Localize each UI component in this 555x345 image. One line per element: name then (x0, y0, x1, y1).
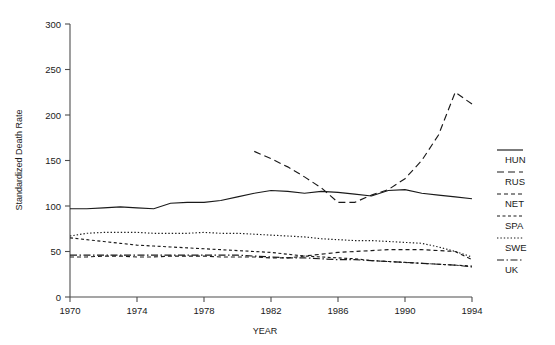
y-axis-title: Standardized Death Rate (14, 109, 24, 210)
series-line-rus (254, 92, 472, 202)
x-tick-label: 1974 (126, 305, 147, 316)
y-tick-label: 300 (45, 19, 61, 30)
chart-legend: HUNRUSNETSPASWEUK (497, 150, 527, 275)
line-chart-svg: 050100150200250300 197019741978198219861… (0, 0, 555, 345)
x-axis-ticks: 1970197419781982198619901994 (59, 297, 482, 316)
x-tick-label: 1986 (327, 305, 348, 316)
x-tick-label: 1978 (193, 305, 214, 316)
series-line-hun (70, 190, 472, 209)
legend-label-rus[interactable]: RUS (505, 176, 525, 187)
axes-group: 050100150200250300 197019741978198219861… (45, 19, 482, 317)
legend-label-uk[interactable]: UK (505, 264, 519, 275)
y-tick-label: 200 (45, 110, 61, 121)
data-series-group (70, 92, 472, 267)
y-tick-label: 100 (45, 201, 61, 212)
y-tick-label: 250 (45, 64, 61, 75)
legend-label-spa[interactable]: SPA (505, 220, 524, 231)
x-axis-title: YEAR (253, 326, 278, 336)
x-tick-label: 1990 (394, 305, 415, 316)
chart-figure: 050100150200250300 197019741978198219861… (0, 0, 555, 345)
y-tick-label: 0 (56, 292, 61, 303)
y-axis-ticks: 050100150200250300 (45, 19, 70, 303)
x-tick-label: 1970 (59, 305, 80, 316)
legend-label-hun[interactable]: HUN (505, 154, 526, 165)
x-tick-label: 1982 (260, 305, 281, 316)
y-tick-label: 50 (50, 246, 61, 257)
legend-label-net[interactable]: NET (505, 198, 524, 209)
series-line-spa (70, 238, 472, 266)
legend-label-swe[interactable]: SWE (505, 242, 527, 253)
y-tick-label: 150 (45, 155, 61, 166)
series-line-uk (70, 255, 472, 267)
x-tick-label: 1994 (461, 305, 482, 316)
